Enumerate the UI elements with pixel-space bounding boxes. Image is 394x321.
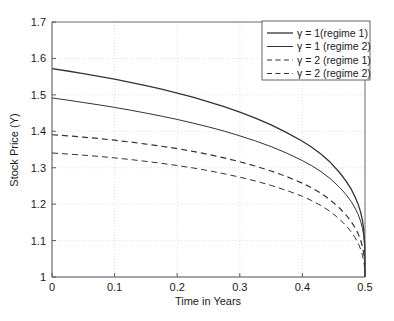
y-tick-label: 1.1 [31,235,46,247]
x-axis-title: Time in Years [175,295,242,307]
legend: γ = 1(regime 1)γ = 1 (regime 2)γ = 2 (re… [262,21,371,80]
legend-label-4: γ = 2 (regime 2) [297,67,371,79]
y-tick-label: 1.2 [31,198,46,210]
y-axis-title: Stock Price (Y) [8,113,20,186]
figure-container: 00.10.20.30.40.5 11.11.21.31.41.51.61.7 … [0,0,394,321]
x-tick-label: 0.4 [295,281,310,293]
y-tick-label: 1.3 [31,162,46,174]
legend-label-2: γ = 1 (regime 2) [297,40,371,52]
x-tick-label: 0.1 [107,281,122,293]
x-tick-label: 0.3 [232,281,247,293]
legend-label-3: γ = 2 (regime 1) [297,54,371,66]
x-tick-label: 0.2 [170,281,185,293]
y-tick-labels: 11.11.21.31.41.51.61.7 [31,16,46,283]
y-tick-label: 1.4 [31,125,46,137]
line-chart: 00.10.20.30.40.5 11.11.21.31.41.51.61.7 … [0,0,394,321]
y-tick-label: 1.5 [31,89,46,101]
y-tick-label: 1.6 [31,52,46,64]
y-tick-label: 1.7 [31,16,46,28]
x-tick-label: 0 [49,281,55,293]
x-tick-label: 0.5 [357,281,372,293]
x-tick-labels: 00.10.20.30.40.5 [49,281,373,293]
legend-label-1: γ = 1(regime 1) [297,27,368,39]
y-tick-label: 1 [40,271,46,283]
